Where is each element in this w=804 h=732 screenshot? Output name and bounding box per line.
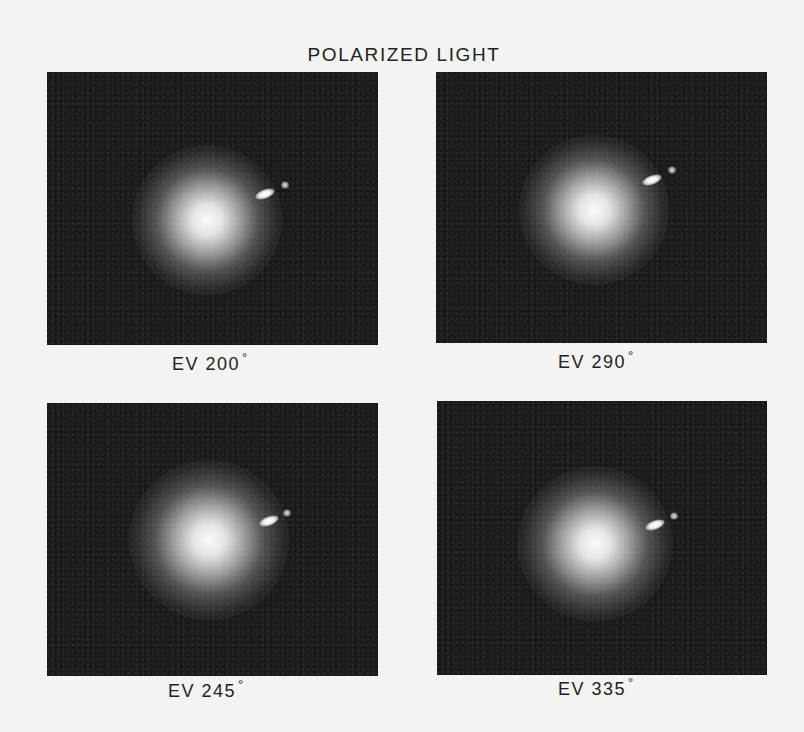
panel-label-ev335: EV 335°: [558, 679, 635, 700]
comet-coma: [518, 467, 673, 622]
figure-title: POLARIZED LIGHT: [0, 44, 804, 66]
degree-symbol: °: [628, 675, 635, 690]
degree-symbol: °: [628, 348, 635, 363]
label-angle: 245: [202, 681, 237, 701]
photo-panel-ev200: [47, 72, 378, 345]
comet-coma: [132, 145, 282, 295]
label-prefix: EV: [168, 681, 195, 701]
label-angle: 290: [592, 352, 627, 372]
panel-label-ev245: EV 245°: [168, 681, 245, 702]
photo-panel-ev335: [437, 401, 767, 675]
photo-panel-ev290: [436, 72, 767, 343]
photo-panel-ev245: [47, 403, 378, 676]
label-prefix: EV: [558, 352, 585, 372]
label-prefix: EV: [558, 679, 585, 699]
comet-coma: [519, 135, 669, 285]
comet-jet-knot: [670, 513, 678, 520]
comet-jet-knot: [668, 167, 676, 174]
label-angle: 200: [206, 354, 241, 374]
comet-coma: [129, 460, 289, 620]
degree-symbol: °: [238, 677, 245, 692]
panel-label-ev290: EV 290°: [558, 352, 635, 373]
label-angle: 335: [592, 679, 627, 699]
label-prefix: EV: [172, 354, 199, 374]
comet-jet-knot: [281, 182, 289, 189]
panel-label-ev200: EV 200°: [172, 354, 249, 375]
comet-jet-knot: [283, 510, 291, 517]
degree-symbol: °: [242, 350, 249, 365]
